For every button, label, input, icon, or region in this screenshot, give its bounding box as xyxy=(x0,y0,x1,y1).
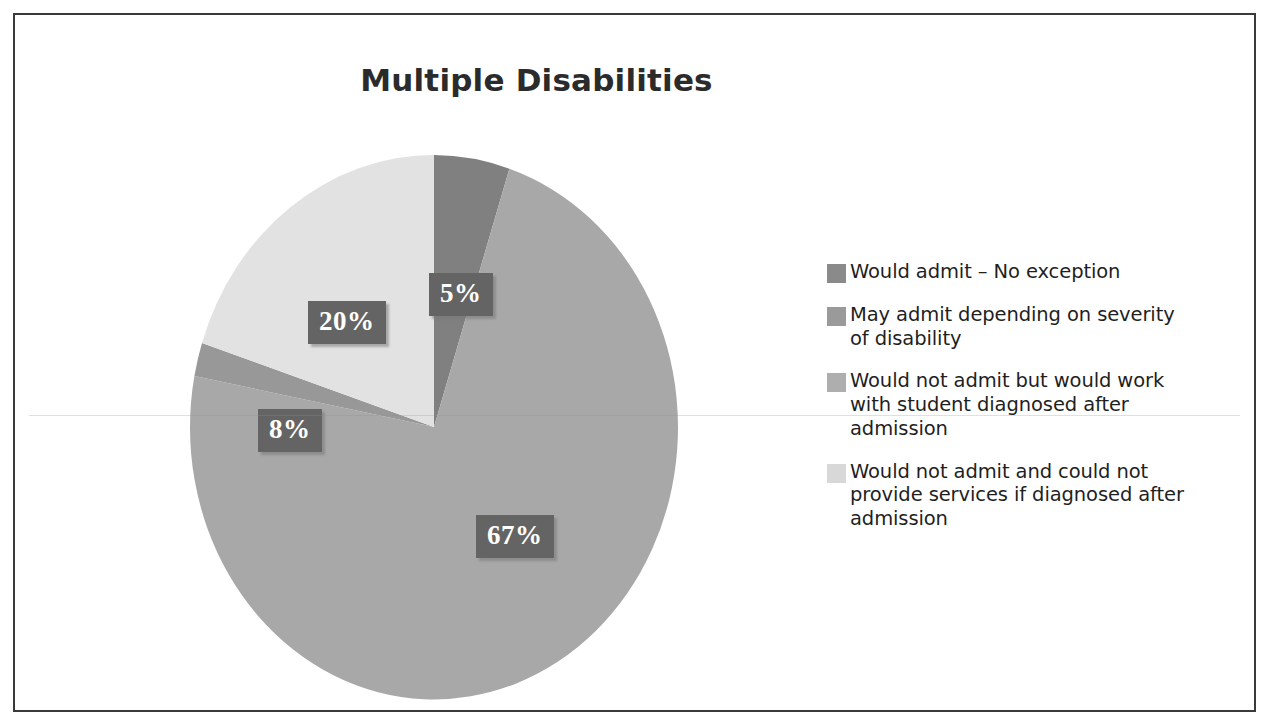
scan-artifact-line xyxy=(29,415,1240,416)
legend-item-label: May admit depending on severity of disab… xyxy=(850,303,1190,351)
legend-item-would-not-admit-no-services[interactable]: Would not admit and could not provide se… xyxy=(827,460,1227,531)
legend-item-would-admit[interactable]: Would admit – No exception xyxy=(827,260,1227,284)
chart-legend: Would admit – No exception May admit dep… xyxy=(827,260,1227,550)
legend-item-label: Would not admit but would work with stud… xyxy=(850,369,1190,440)
legend-item-label: Would not admit and could not provide se… xyxy=(850,460,1190,531)
data-label-slice-5: 5% xyxy=(429,273,493,316)
pie-chart-svg xyxy=(178,140,690,700)
chart-page: Multiple Disabilities 5% 67% 8% 20% xyxy=(0,0,1272,728)
legend-swatch-icon xyxy=(827,264,846,283)
data-label-slice-67: 67% xyxy=(476,515,554,558)
legend-swatch-icon xyxy=(827,373,846,392)
chart-frame: Multiple Disabilities 5% 67% 8% 20% xyxy=(13,13,1256,712)
legend-item-may-admit[interactable]: May admit depending on severity of disab… xyxy=(827,303,1227,351)
legend-item-would-not-admit-but-work[interactable]: Would not admit but would work with stud… xyxy=(827,369,1227,440)
legend-swatch-icon xyxy=(827,464,846,483)
legend-item-label: Would admit – No exception xyxy=(850,260,1120,284)
legend-swatch-icon xyxy=(827,307,846,326)
data-label-slice-20: 20% xyxy=(308,301,386,344)
pie-chart-area: 5% 67% 8% 20% xyxy=(15,15,835,714)
